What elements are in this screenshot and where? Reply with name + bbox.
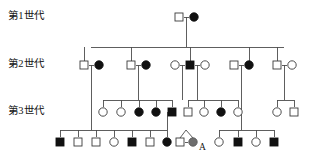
pedigree-symbol-ii-7-female-unaffected	[201, 61, 209, 69]
pedigree-symbol-iii-5-male-affected	[168, 108, 176, 116]
pedigree-symbol-iii-10-female-unaffected	[273, 108, 281, 116]
pedigree-symbol-iv-4-female-unaffected	[110, 138, 118, 146]
pedigree-symbol-iv-1-male-affected	[56, 138, 64, 146]
pedigree-symbol-ii-10-male-unaffected	[273, 61, 281, 69]
pedigree-symbol-ii-3-male-unaffected	[127, 61, 135, 69]
pedigree-symbol-iv-12-female-unaffected	[252, 138, 260, 146]
pedigree-symbol-i-2-female-affected	[190, 13, 198, 21]
pedigree-symbol-iii-1-female-unaffected	[99, 108, 107, 116]
pedigree-symbol-ii-4-female-affected	[142, 61, 150, 69]
pedigree-symbol-i-1-male-unaffected	[175, 13, 183, 21]
pedigree-symbol-iii-7-female-unaffected	[200, 108, 208, 116]
pedigree-symbol-iii-11-male-unaffected	[290, 108, 298, 116]
pedigree-chart-figure: 第1世代第2世代第3世代A	[0, 0, 313, 158]
generation-label-gen1-label: 第1世代	[8, 9, 45, 21]
pedigree-symbol-iv-5-male-affected	[128, 138, 136, 146]
pedigree-symbol-ii-8-male-unaffected	[230, 61, 238, 69]
pedigree-symbol-iv-11-male-affected	[234, 138, 242, 146]
generation-label-gen3-label: 第3世代	[8, 104, 45, 116]
pedigree-symbol-iv-3-male-unaffected	[92, 138, 100, 146]
pedigree-symbol-iii-4-female-affected	[152, 108, 160, 116]
annotation-proband-label-a: A	[199, 142, 206, 152]
pedigree-symbol-iv-7-female-affected	[163, 138, 171, 146]
pedigree-symbol-iv-6-male-unaffected	[146, 138, 154, 146]
pedigree-symbol-iii-8-female-affected	[217, 108, 225, 116]
pedigree-symbol-iii-6-male-unaffected	[184, 108, 192, 116]
pedigree-symbol-ii-5-female-unaffected	[171, 61, 179, 69]
figure-background	[0, 0, 313, 158]
pedigree-symbol-iv-13-male-affected	[270, 138, 278, 146]
pedigree-symbol-ii-2-female-affected	[95, 61, 103, 69]
pedigree-symbol-ii-9-female-affected	[245, 61, 253, 69]
pedigree-symbol-iv-10-female-unaffected	[215, 138, 223, 146]
pedigree-symbol-iv-9-female-marked	[189, 138, 197, 146]
pedigree-symbol-iii-9-female-unaffected	[234, 108, 242, 116]
pedigree-symbol-iv-2-male-unaffected	[74, 138, 82, 146]
pedigree-symbol-ii-1-male-unaffected	[80, 61, 88, 69]
pedigree-symbol-iii-2-female-unaffected	[117, 108, 125, 116]
generation-label-gen2-label: 第2世代	[8, 57, 45, 69]
pedigree-symbol-ii-6-male-affected	[186, 61, 194, 69]
pedigree-symbol-iv-8-male-unaffected	[176, 138, 184, 146]
pedigree-symbol-iii-3-female-affected	[135, 108, 143, 116]
pedigree-canvas: 第1世代第2世代第3世代A	[0, 0, 313, 158]
pedigree-symbol-ii-11-female-unaffected	[288, 61, 296, 69]
